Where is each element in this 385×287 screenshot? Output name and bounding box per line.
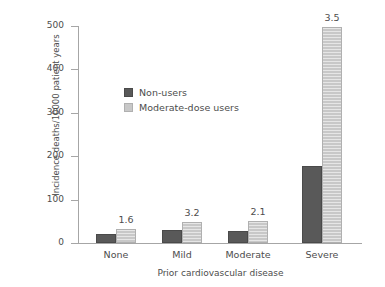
bar-non-users-none (96, 234, 116, 243)
y-tick (71, 200, 78, 201)
legend-swatch-icon (124, 88, 133, 97)
y-tick (71, 243, 78, 244)
y-tick-label: 0 (30, 238, 64, 247)
bar-non-users-moderate (228, 231, 248, 243)
legend-label: Non-users (139, 87, 187, 98)
legend-swatch-icon (124, 103, 133, 112)
bar-moderate-dose-users-mild (182, 222, 202, 243)
y-tick (71, 69, 78, 70)
y-tick (71, 113, 78, 114)
x-tick-label-severe: Severe (282, 249, 362, 260)
bar-non-users-severe (302, 166, 322, 243)
bar-chart: 0100200300400500 Incidence deaths/10000 … (0, 0, 385, 287)
ratio-label-mild: 3.2 (172, 207, 212, 218)
bar-moderate-dose-users-moderate (248, 221, 268, 243)
y-axis-line (78, 26, 79, 244)
y-axis-title: Incidence deaths/10000 patient years (51, 15, 61, 215)
y-tick (71, 156, 78, 157)
legend-item-non-users: Non-users (124, 86, 239, 99)
bar-moderate-dose-users-severe (322, 27, 342, 243)
x-axis-line (78, 243, 362, 244)
x-axis-title: Prior cardiovascular disease (78, 268, 363, 278)
legend: Non-users Moderate-dose users (124, 86, 239, 116)
legend-label: Moderate-dose users (139, 102, 239, 113)
x-tick-label-moderate: Moderate (208, 249, 288, 260)
ratio-label-moderate: 2.1 (238, 206, 278, 217)
bar-moderate-dose-users-none (116, 229, 136, 243)
ratio-label-severe: 3.5 (312, 12, 352, 23)
ratio-label-none: 1.6 (106, 214, 146, 225)
bar-non-users-mild (162, 230, 182, 243)
legend-item-moderate-dose-users: Moderate-dose users (124, 101, 239, 114)
y-tick (71, 26, 78, 27)
